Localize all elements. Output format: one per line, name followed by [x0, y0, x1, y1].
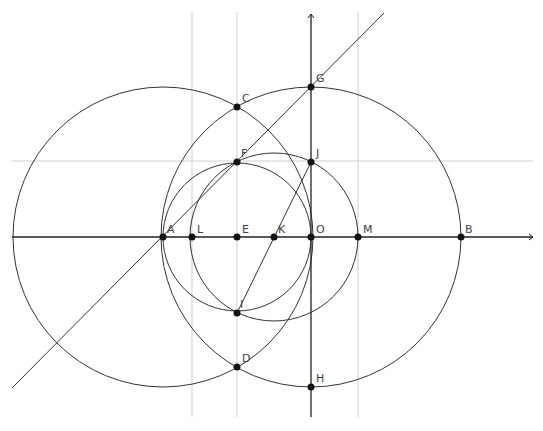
point-marker[interactable] [234, 234, 241, 241]
point-B[interactable]: B [458, 223, 473, 241]
point-marker[interactable] [355, 234, 362, 241]
point-marker[interactable] [458, 234, 465, 241]
guide-lines [12, 12, 533, 417]
geometry-canvas: ALEKOMBCGFJIDH [0, 0, 543, 431]
point-C[interactable]: C [234, 92, 251, 111]
point-F[interactable]: F [234, 147, 248, 166]
point-marker[interactable] [234, 364, 241, 371]
points: ALEKOMBCGFJIDH [160, 72, 473, 391]
point-H[interactable]: H [308, 372, 325, 391]
point-label: I [240, 298, 243, 311]
point-label: G [316, 72, 325, 85]
lines [12, 13, 384, 388]
point-label: O [316, 223, 325, 236]
point-label: L [197, 223, 204, 236]
point-label: E [242, 223, 249, 236]
point-label: D [242, 352, 250, 365]
point-label: A [167, 223, 175, 236]
point-J[interactable]: J [308, 147, 320, 166]
point-E[interactable]: E [234, 223, 250, 241]
point-marker[interactable] [308, 159, 315, 166]
point-D[interactable]: D [234, 352, 251, 371]
point-label: C [242, 92, 250, 105]
point-label: K [278, 223, 286, 236]
point-marker[interactable] [160, 234, 167, 241]
point-I[interactable]: I [234, 298, 244, 317]
point-marker[interactable] [308, 234, 315, 241]
point-label: B [465, 223, 473, 236]
point-label: H [316, 372, 324, 385]
point-label: M [363, 223, 373, 236]
point-marker[interactable] [189, 234, 196, 241]
point-label: J [315, 147, 319, 160]
point-marker[interactable] [234, 104, 241, 111]
point-marker[interactable] [234, 159, 241, 166]
point-K[interactable]: K [271, 223, 287, 241]
line-AG[interactable] [12, 13, 384, 388]
point-label: F [241, 147, 247, 160]
axes [12, 14, 533, 417]
point-marker[interactable] [308, 84, 315, 91]
point-marker[interactable] [271, 234, 278, 241]
point-marker[interactable] [308, 384, 315, 391]
